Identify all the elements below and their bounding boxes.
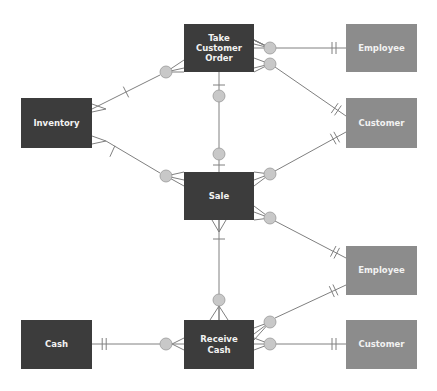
entity-cash[interactable]: Cash bbox=[21, 320, 92, 369]
entity-employee-mid[interactable]: Employee bbox=[346, 246, 417, 295]
entity-label: Customer bbox=[358, 339, 404, 349]
entity-receive-cash[interactable]: Receive Cash bbox=[184, 320, 254, 369]
optional-circle-icon bbox=[264, 58, 276, 70]
entity-sale[interactable]: Sale bbox=[184, 172, 254, 220]
entity-employee-top[interactable]: Employee bbox=[346, 24, 417, 72]
entity-label: Inventory bbox=[33, 118, 79, 128]
entity-label: Cash bbox=[45, 339, 68, 349]
entity-label: Employee bbox=[358, 265, 405, 275]
entity-label: Customer bbox=[358, 118, 404, 128]
entity-label: Receive Cash bbox=[200, 334, 237, 354]
entity-label: Take Customer Order bbox=[184, 33, 254, 64]
entity-customer-top[interactable]: Customer bbox=[346, 98, 417, 148]
entity-inventory[interactable]: Inventory bbox=[21, 98, 92, 148]
optional-circle-icon bbox=[213, 90, 225, 102]
entity-customer-bottom[interactable]: Customer bbox=[346, 320, 417, 369]
entity-label: Employee bbox=[358, 43, 405, 53]
entity-label: Sale bbox=[209, 191, 230, 201]
optional-circle-icon bbox=[264, 212, 276, 224]
entity-take-customer-order[interactable]: Take Customer Order bbox=[184, 24, 254, 72]
optional-circle-icon bbox=[160, 170, 172, 182]
optional-circle-icon bbox=[213, 294, 225, 306]
optional-circle-icon bbox=[264, 168, 276, 180]
optional-circle-icon bbox=[264, 42, 276, 54]
optional-circle-icon bbox=[264, 338, 276, 350]
optional-circle-icon bbox=[213, 148, 225, 160]
optional-circle-icon bbox=[264, 316, 276, 328]
optional-circle-icon bbox=[160, 66, 172, 78]
optional-circle-icon bbox=[160, 338, 172, 350]
